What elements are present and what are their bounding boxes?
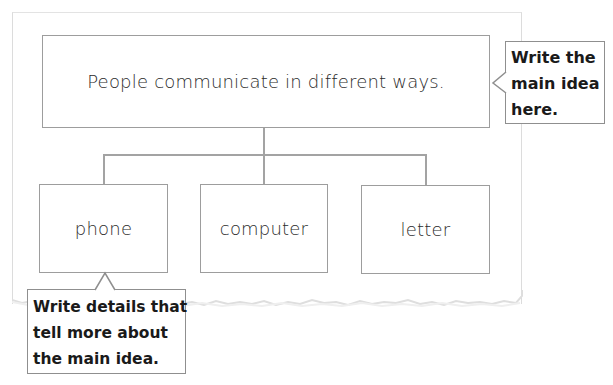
callout-pointer-left — [491, 71, 507, 95]
callout-line: Write details that — [33, 294, 185, 320]
connector-trunk — [263, 128, 265, 185]
main-idea-callout: Write the main idea here. — [505, 41, 605, 124]
detail-text: computer — [220, 218, 308, 239]
detail-text: phone — [75, 218, 132, 239]
main-idea-box: People communicate in different ways. — [42, 35, 490, 128]
detail-box-phone: phone — [39, 184, 168, 273]
detail-box-computer: computer — [200, 184, 328, 273]
connector-crossbar — [103, 154, 426, 156]
callout-line: main idea — [511, 71, 604, 97]
callout-line: the main idea. — [33, 346, 185, 372]
connector-left-drop — [103, 154, 105, 184]
connector-right-drop — [425, 154, 427, 185]
details-callout: Write details that tell more about the m… — [27, 289, 186, 374]
callout-line: here. — [511, 97, 604, 123]
callout-pointer-up — [94, 272, 118, 291]
callout-line: tell more about — [33, 320, 185, 346]
detail-box-letter: letter — [361, 185, 490, 274]
detail-text: letter — [401, 219, 451, 240]
callout-line: Write the — [511, 45, 604, 71]
main-idea-text: People communicate in different ways. — [87, 71, 445, 92]
